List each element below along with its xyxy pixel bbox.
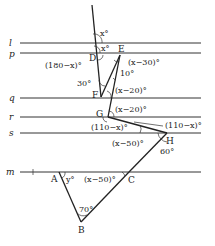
- label-line-l: l: [9, 38, 12, 48]
- angle-label-30: 30°: [77, 79, 91, 88]
- angle-label-d: (180−x)°: [45, 61, 82, 70]
- angle-label-f: (x−20)°: [115, 86, 147, 95]
- label-line-s: s: [9, 128, 14, 138]
- arc-g-left: [103, 117, 107, 122]
- label-line-r: r: [9, 112, 14, 122]
- label-point-d: D: [89, 53, 96, 63]
- arc-f: [107, 91, 111, 98]
- label-point-f: F: [92, 90, 98, 100]
- label-point-e: E: [118, 44, 125, 54]
- label-point-c: C: [128, 175, 135, 185]
- angle-label-h: (x−50)°: [112, 139, 144, 148]
- arc-c: [122, 172, 125, 176]
- angle-label-c: (x−50)°: [84, 175, 116, 184]
- angle-label-top-x: x°: [100, 29, 109, 38]
- label-line-m: m: [6, 167, 15, 177]
- label-point-b: B: [78, 225, 85, 235]
- arc-d: [98, 55, 103, 60]
- geometry-diagram: l p q r s m: [0, 0, 215, 246]
- label-point-a: A: [50, 174, 58, 184]
- arc-a: [62, 172, 65, 178]
- angle-label-a: y°: [65, 175, 75, 184]
- label-point-h: H: [166, 136, 174, 146]
- angle-label-60: 60°: [160, 147, 174, 156]
- angle-label-r: (110−x)°: [165, 121, 202, 130]
- angle-label-l-x: x°: [101, 44, 110, 53]
- angle-label-g: (x−20)°: [115, 105, 147, 114]
- arc-h-left: [158, 133, 161, 139]
- angle-label-e: (x−30)°: [128, 58, 160, 67]
- angle-label-10: 10°: [120, 69, 134, 78]
- angle-label-b: 70°: [79, 205, 93, 214]
- line-labels: l p q r s m: [6, 38, 15, 177]
- angle-label-s: (110−x)°: [91, 123, 128, 132]
- arc-g: [109, 111, 114, 117]
- label-point-g: G: [96, 109, 103, 119]
- label-line-q: q: [9, 93, 15, 103]
- label-line-p: p: [9, 49, 15, 59]
